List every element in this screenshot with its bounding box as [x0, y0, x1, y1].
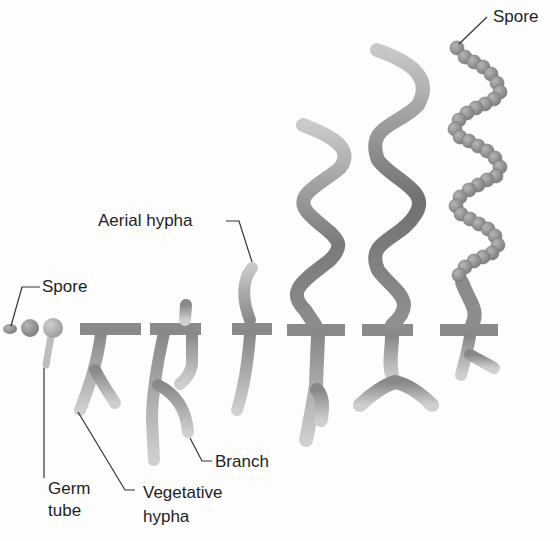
label-vegetative-hypha-line1: Vegetative — [143, 483, 222, 502]
label-branch: Branch — [215, 452, 269, 471]
label-germ-tube-line2: tube — [48, 501, 81, 520]
leader-aerial-hypha — [226, 221, 252, 262]
diagram: Spore Spore Aerial hypha Branch Germ tub… — [0, 0, 560, 541]
germ-tube-stage — [43, 318, 63, 365]
leader-lines — [11, 17, 487, 490]
aerial-hypha-stage-8 — [360, 50, 432, 405]
vegetative-hypha-stage — [80, 333, 121, 410]
spore-stage-1 — [3, 324, 17, 334]
label-aerial-hypha: Aerial hypha — [98, 211, 193, 230]
leader-spore-top — [459, 17, 487, 44]
substrate-mycelium — [80, 329, 498, 330]
spore-stage-2 — [21, 319, 39, 337]
leader-branch — [190, 438, 212, 461]
leader-spore-left — [11, 287, 40, 326]
label-germ-tube-line1: Germ — [48, 479, 91, 498]
aerial-hypha-stage-6 — [237, 268, 252, 410]
aerial-hypha-stage-7 — [297, 125, 345, 440]
spore-chain — [448, 41, 507, 282]
label-spore-left: Spore — [42, 277, 87, 296]
label-spore-top: Spore — [493, 7, 538, 26]
diagram-art — [0, 0, 560, 541]
label-vegetative-hypha-line2: hypha — [143, 507, 189, 526]
